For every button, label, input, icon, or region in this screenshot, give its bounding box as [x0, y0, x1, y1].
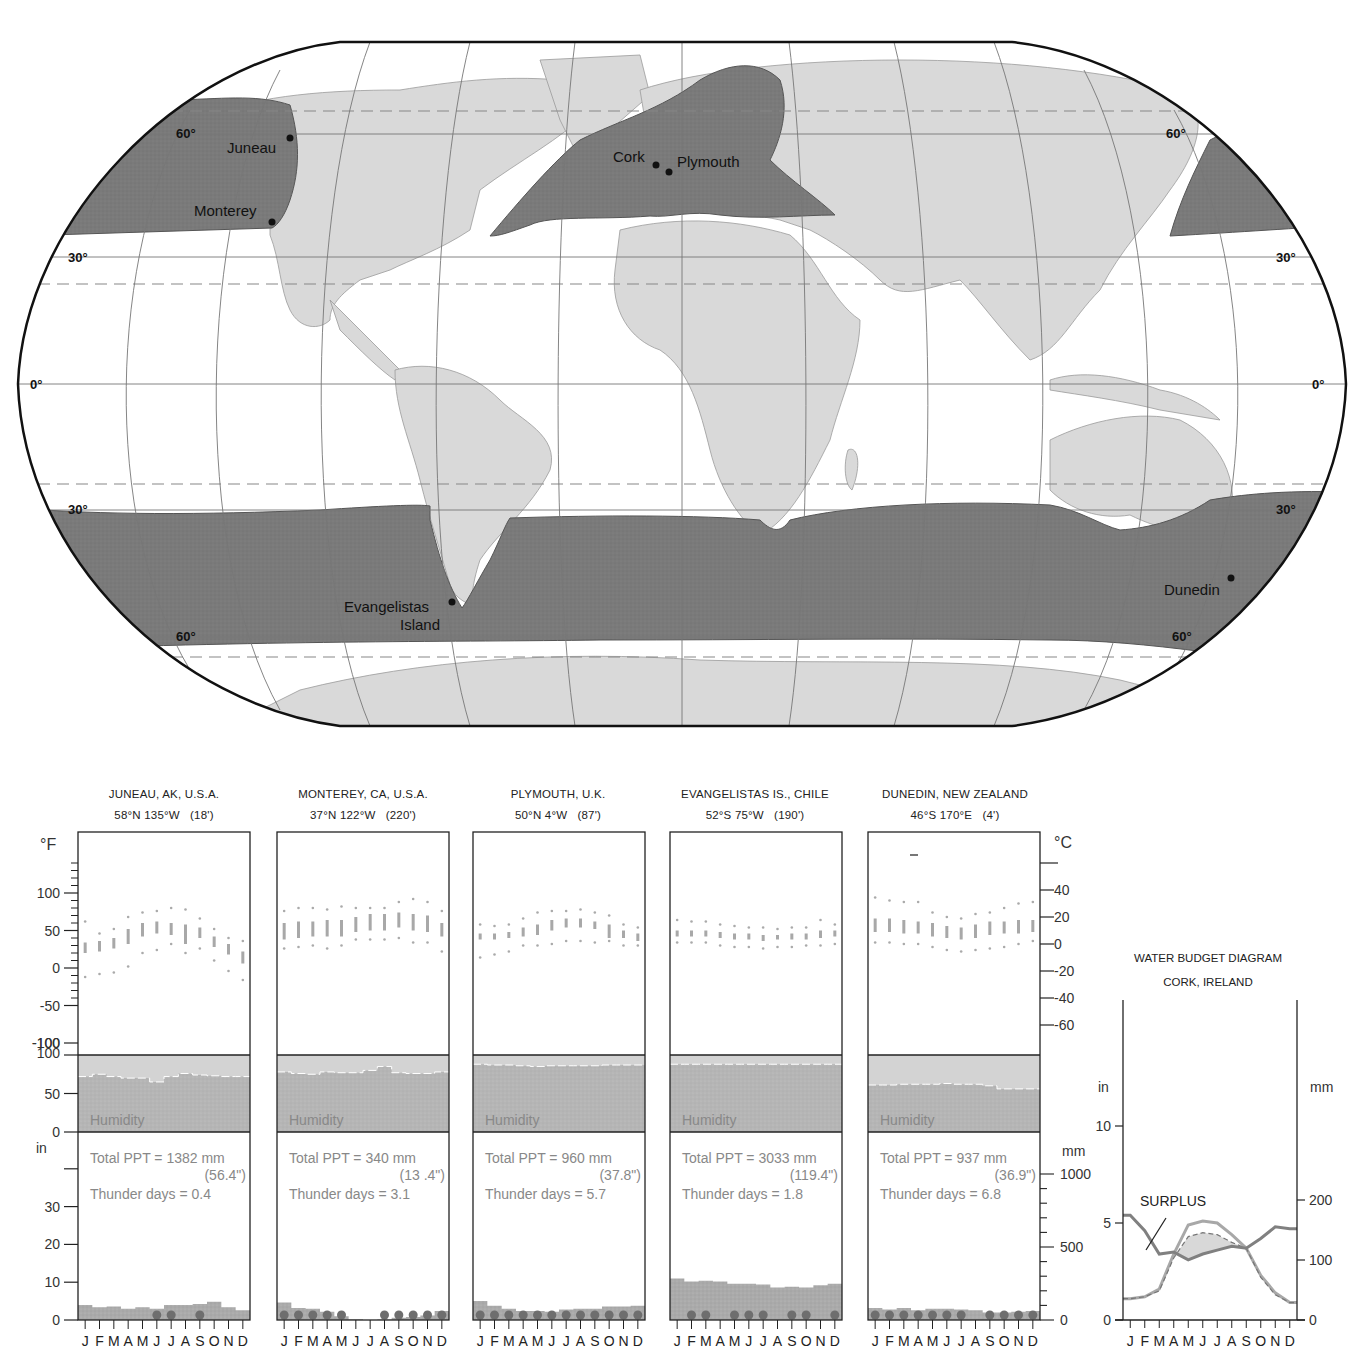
thunder-day-marker [957, 1311, 966, 1320]
thunder-day-marker [701, 1311, 710, 1320]
thunder-day-marker [476, 1311, 485, 1320]
thunder-day-marker [590, 1311, 599, 1320]
month-label: F [490, 1333, 499, 1349]
month-label: J [563, 1333, 570, 1349]
month-label: A [773, 1333, 783, 1349]
svg-text:-100: -100 [32, 1035, 60, 1051]
svg-text:200: 200 [1309, 1192, 1333, 1208]
svg-text:0: 0 [1054, 936, 1062, 952]
month-label: F [95, 1333, 104, 1349]
svg-text:-60: -60 [1054, 1017, 1074, 1033]
thunder-days: Thunder days = 3.1 [289, 1186, 445, 1203]
month-label: A [971, 1333, 981, 1349]
month-label: A [380, 1333, 390, 1349]
precip-summary: Total PPT = 1382 mm(56.4")Thunder days =… [90, 1150, 246, 1203]
thunder-day-marker [1000, 1311, 1009, 1320]
thunder-day-marker [437, 1311, 446, 1320]
climograph-panel: JFMAMJJASONDHumidity [868, 832, 1040, 1349]
svg-text:0: 0 [1309, 1312, 1317, 1328]
month-label: F [687, 1333, 696, 1349]
svg-text:100: 100 [37, 885, 61, 901]
svg-text:O: O [1255, 1333, 1266, 1349]
mm-label: mm [1062, 1143, 1085, 1159]
thunder-day-marker [914, 1311, 923, 1320]
thunder-day-marker [759, 1311, 768, 1320]
svg-text:0: 0 [52, 960, 60, 976]
svg-text:-50: -50 [40, 998, 60, 1014]
thunder-day-marker [519, 1311, 528, 1320]
wb-in-label: in [1098, 1079, 1109, 1095]
precip-summary: Total PPT = 960 mm(37.8")Thunder days = … [485, 1150, 641, 1203]
svg-text:20: 20 [44, 1236, 60, 1252]
total-ppt-inches: (119.4") [682, 1167, 838, 1184]
month-label: D [1028, 1333, 1038, 1349]
svg-text:D: D [1285, 1333, 1295, 1349]
month-label: N [618, 1333, 628, 1349]
month-label: S [590, 1333, 599, 1349]
month-label: J [872, 1333, 879, 1349]
month-label: O [408, 1333, 419, 1349]
thunder-day-marker [152, 1311, 161, 1320]
month-label: N [223, 1333, 233, 1349]
total-ppt: Total PPT = 937 mm [880, 1150, 1036, 1167]
climograph-panel: JFMAMJJASONDHumidity [670, 832, 842, 1349]
thunder-day-marker [337, 1311, 346, 1320]
water-budget-subtitle: CORK, IRELAND [1108, 970, 1308, 994]
wb-mm-label: mm [1310, 1079, 1333, 1095]
month-label: O [801, 1333, 812, 1349]
inches-label: in [36, 1140, 47, 1156]
svg-text:M: M [1182, 1333, 1194, 1349]
total-ppt-inches: (13 .4") [289, 1167, 445, 1184]
month-label: M [336, 1333, 348, 1349]
month-label: A [322, 1333, 332, 1349]
month-label: J [745, 1333, 752, 1349]
svg-text:100: 100 [1309, 1252, 1333, 1268]
total-ppt-inches: (56.4") [90, 1167, 246, 1184]
water-budget-title: WATER BUDGET DIAGRAM [1108, 946, 1308, 970]
month-label: J [168, 1333, 175, 1349]
month-label: M [927, 1333, 939, 1349]
month-label: M [503, 1333, 515, 1349]
month-label: J [82, 1333, 89, 1349]
month-label: D [633, 1333, 643, 1349]
svg-text:30: 30 [44, 1199, 60, 1215]
humidity-label: Humidity [90, 1112, 144, 1128]
svg-text:N: N [1270, 1333, 1280, 1349]
thunder-day-marker [687, 1311, 696, 1320]
svg-text:50: 50 [44, 923, 60, 939]
surplus-label: SURPLUS [1140, 1193, 1206, 1209]
thunder-day-marker [504, 1311, 513, 1320]
total-ppt: Total PPT = 3033 mm [682, 1150, 838, 1167]
thunder-day-marker [490, 1311, 499, 1320]
month-label: J [477, 1333, 484, 1349]
month-label: M [307, 1333, 319, 1349]
precip-summary: Total PPT = 937 mm(36.9")Thunder days = … [880, 1150, 1036, 1203]
svg-text:J: J [1127, 1333, 1134, 1349]
month-label: M [108, 1333, 120, 1349]
thunder-day-marker [380, 1311, 389, 1320]
deg-f-label: °F [40, 836, 56, 853]
month-label: M [137, 1333, 149, 1349]
climograph-panel: JFMAMJJASONDHumidity [473, 832, 645, 1349]
month-label: J [352, 1333, 359, 1349]
thunder-days: Thunder days = 6.8 [880, 1186, 1036, 1203]
svg-text:0: 0 [1103, 1312, 1111, 1328]
svg-text:500: 500 [1060, 1239, 1084, 1255]
humidity-label: Humidity [682, 1112, 736, 1128]
thunder-day-marker [928, 1311, 937, 1320]
month-label: J [674, 1333, 681, 1349]
precip-summary: Total PPT = 3033 mm(119.4")Thunder days … [682, 1150, 838, 1203]
month-label: J [281, 1333, 288, 1349]
thunder-day-marker [409, 1311, 418, 1320]
month-label: O [209, 1333, 220, 1349]
svg-text:10: 10 [1095, 1118, 1111, 1134]
month-label: A [913, 1333, 923, 1349]
svg-text:A: A [1169, 1333, 1179, 1349]
thunder-day-marker [899, 1311, 908, 1320]
thunder-day-marker [802, 1311, 811, 1320]
precip-bars [78, 1302, 250, 1320]
month-label: F [885, 1333, 894, 1349]
thunder-day-marker [985, 1311, 994, 1320]
month-label: M [532, 1333, 544, 1349]
svg-text:M: M [1153, 1333, 1165, 1349]
